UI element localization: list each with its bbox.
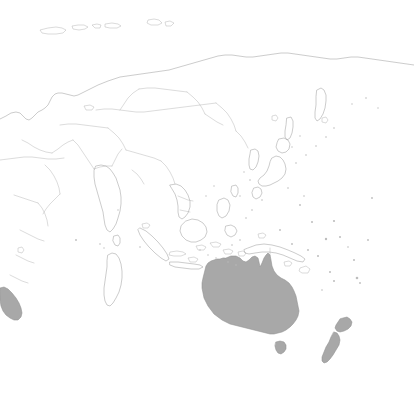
pacific-islet-23	[249, 179, 251, 181]
pacific-islet-10	[371, 197, 373, 199]
pacific-islet-15	[291, 243, 293, 245]
pacific-islet-44	[377, 107, 378, 108]
pacific-islet-18	[239, 239, 241, 241]
pacific-islet-26	[347, 246, 349, 248]
pacific-islet-17	[317, 255, 319, 257]
pacific-islet-31	[75, 239, 77, 241]
pacific-islet-20	[303, 195, 305, 197]
map-container	[0, 0, 414, 403]
pacific-islet-7	[356, 277, 359, 280]
map-background	[0, 0, 414, 403]
pacific-islet-3	[339, 236, 341, 238]
pacific-islet-8	[359, 282, 361, 284]
pacific-islet-21	[287, 187, 289, 189]
pacific-islet-36	[305, 154, 307, 156]
pacific-islet-38	[325, 136, 327, 138]
pacific-islet-12	[251, 209, 253, 211]
pacific-islet-34	[213, 185, 214, 186]
pacific-islet-29	[99, 243, 101, 245]
pacific-islet-9	[367, 239, 369, 241]
pacific-islet-16	[307, 249, 309, 251]
pacific-islet-33	[205, 195, 206, 196]
pacific-islet-39	[333, 127, 335, 129]
pacific-islet-11	[299, 204, 301, 206]
pacific-islet-45	[199, 249, 200, 250]
pacific-islet-46	[207, 254, 208, 255]
pacific-islet-25	[239, 195, 240, 196]
pacific-islet-4	[353, 259, 355, 261]
pacific-islet-19	[231, 244, 233, 246]
pacific-islet-22	[261, 199, 263, 201]
pacific-islet-32	[117, 209, 118, 210]
pacific-islet-40	[299, 135, 300, 136]
pacific-islet-37	[315, 145, 317, 147]
pacific-islet-28	[139, 246, 141, 248]
pacific-islet-0	[311, 221, 313, 223]
pacific-islet-2	[325, 238, 327, 240]
pacific-islet-49	[235, 264, 236, 265]
pacific-islet-41	[291, 146, 292, 147]
pacific-islet-27	[321, 289, 323, 291]
pacific-islet-6	[333, 280, 335, 282]
pacific-islet-13	[245, 217, 247, 219]
pacific-islet-24	[243, 171, 244, 172]
pacific-islet-14	[279, 229, 281, 231]
pacific-islet-47	[215, 257, 216, 258]
pacific-islet-43	[351, 103, 352, 104]
pacific-islet-35	[295, 162, 297, 164]
pacific-islet-48	[227, 261, 228, 262]
pacific-islet-1	[333, 220, 335, 222]
pacific-islet-30	[103, 247, 104, 248]
pacific-islet-5	[329, 271, 331, 273]
pacific-islet-42	[365, 97, 367, 99]
world-map	[0, 0, 414, 403]
